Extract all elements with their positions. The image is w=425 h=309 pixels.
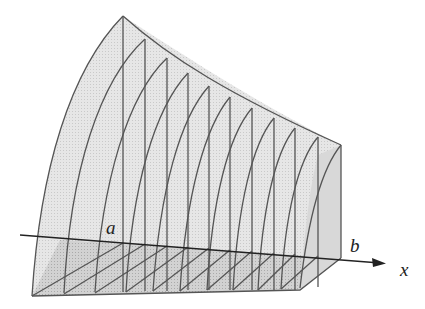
x-axis-arrowhead xyxy=(372,258,386,267)
label-x-axis: x xyxy=(400,260,408,279)
label-a: a xyxy=(106,218,116,237)
label-b: b xyxy=(350,236,360,255)
solid-of-revolution-diagram xyxy=(0,0,425,309)
